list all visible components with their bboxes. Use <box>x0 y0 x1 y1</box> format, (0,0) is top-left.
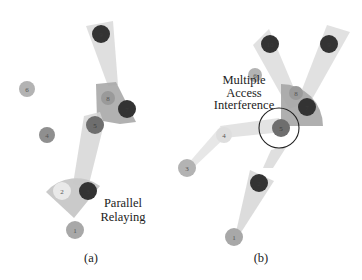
node-4: 4 <box>216 127 232 143</box>
annotation-line: Relaying <box>100 210 146 224</box>
node-4: 4 <box>39 127 55 143</box>
node-id-label: 7 <box>305 104 309 112</box>
node-id-label: 4 <box>222 132 226 140</box>
node-10: 10 <box>261 35 279 53</box>
node-9: 9 <box>92 25 110 43</box>
panel-caption: (b) <box>254 251 269 265</box>
node-id-label: 9 <box>99 31 103 39</box>
node-8: 8 <box>101 91 115 105</box>
node-id-label: 3 <box>86 188 90 196</box>
panel-b-multiple-access-interference: 12345678910MultipleAccessInterference(b) <box>178 25 350 265</box>
node-id-label: 1 <box>232 234 236 242</box>
beam-sector <box>263 146 287 168</box>
node-id-label: 5 <box>93 122 97 130</box>
annotation-line: Parallel <box>104 196 143 210</box>
node-3: 3 <box>79 182 97 200</box>
node-id-label: 10 <box>267 41 275 49</box>
node-7: 7 <box>118 100 136 118</box>
node-3: 3 <box>178 159 196 177</box>
panel-a-parallel-relaying: 123456789ParallelRelaying(a) <box>19 21 146 265</box>
panel-caption: (a) <box>84 251 98 265</box>
relay-network-figure: 123456789ParallelRelaying(a) 12345678910… <box>0 0 362 280</box>
node-id-label: 4 <box>45 132 49 140</box>
node-id-label: 2 <box>60 188 64 196</box>
node-1: 1 <box>66 221 84 239</box>
node-id-label: 8 <box>106 95 110 103</box>
node-8: 8 <box>289 86 303 100</box>
node-id-label: 3 <box>185 165 189 173</box>
node-id-label: 8 <box>294 90 298 98</box>
node-id-label: 7 <box>125 106 129 114</box>
node-2: 2 <box>250 174 268 192</box>
node-id-label: 1 <box>73 227 77 235</box>
annotation-line: Interference <box>214 98 275 112</box>
node-6: 6 <box>19 81 35 97</box>
node-id-label: 6 <box>25 86 29 94</box>
node-5: 5 <box>272 119 290 137</box>
node-7: 7 <box>298 98 316 116</box>
node-id-label: 2 <box>257 180 261 188</box>
node-9: 9 <box>320 35 338 53</box>
node-id-label: 9 <box>327 41 331 49</box>
node-2: 2 <box>53 182 71 200</box>
node-1: 1 <box>225 228 243 246</box>
node-5: 5 <box>86 116 104 134</box>
node-id-label: 5 <box>279 125 283 133</box>
